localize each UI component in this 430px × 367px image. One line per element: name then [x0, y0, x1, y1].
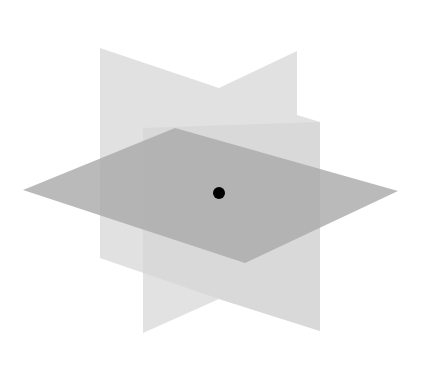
diagram-canvas — [0, 0, 430, 367]
horizontal-plane — [23, 128, 398, 263]
planes-diagram — [0, 0, 430, 367]
intersection-point — [213, 187, 225, 199]
